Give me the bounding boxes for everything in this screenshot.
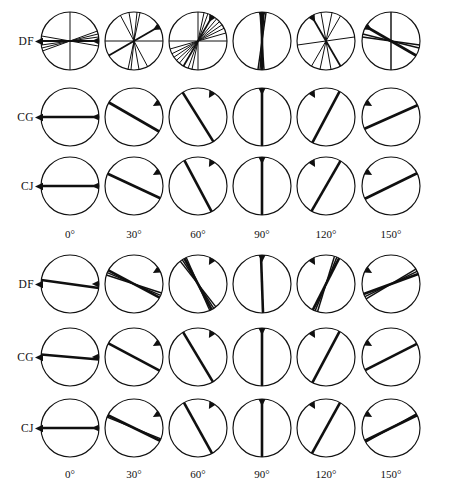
orientation-cell-cg-150 xyxy=(353,319,429,395)
column-label-0: 0° xyxy=(45,468,95,480)
target-angle-marker xyxy=(258,255,265,262)
orientation-line xyxy=(261,255,263,313)
target-angle-marker xyxy=(308,330,318,340)
orientation-line xyxy=(41,354,99,359)
target-angle-marker xyxy=(308,401,318,411)
orientation-line xyxy=(106,275,161,293)
row-label-cj: CJ xyxy=(4,422,34,434)
orientation-cell-cj-150 xyxy=(353,390,429,466)
orientation-line xyxy=(184,403,212,454)
column-label-120: 120° xyxy=(301,468,351,480)
orientation-line xyxy=(312,331,339,382)
panel-bottom: DFCGCJ0°30°60°90°120°150° xyxy=(0,0,449,481)
orientation-line xyxy=(312,403,340,454)
orientation-line xyxy=(366,414,417,442)
column-label-30: 30° xyxy=(109,468,159,480)
orientation-line xyxy=(365,344,417,370)
target-angle-marker xyxy=(364,339,374,349)
orientation-line xyxy=(41,280,98,288)
orientation-cell-df-150 xyxy=(353,246,429,322)
target-angle-marker xyxy=(364,410,374,420)
column-label-90: 90° xyxy=(237,468,287,480)
orientation-line xyxy=(318,256,335,311)
target-angle-marker xyxy=(364,266,374,276)
column-label-60: 60° xyxy=(173,468,223,480)
orientation-line xyxy=(186,258,210,311)
orientation-line xyxy=(366,269,416,299)
orientation-line xyxy=(108,343,159,370)
row-label-df: DF xyxy=(4,278,34,290)
target-angle-marker xyxy=(308,257,318,267)
column-label-150: 150° xyxy=(366,468,416,480)
orientation-line xyxy=(183,332,213,382)
target-angle-marker xyxy=(206,401,216,411)
target-angle-marker xyxy=(258,399,265,406)
orientation-diagram-figure: DFCGCJ0°30°60°90°120°150°DFCGCJ0°30°60°9… xyxy=(0,0,449,481)
orientation-line xyxy=(107,417,161,439)
target-angle-marker xyxy=(206,257,216,267)
row-label-cg: CG xyxy=(4,351,34,363)
target-angle-marker xyxy=(258,328,265,335)
target-angle-marker xyxy=(206,330,216,340)
